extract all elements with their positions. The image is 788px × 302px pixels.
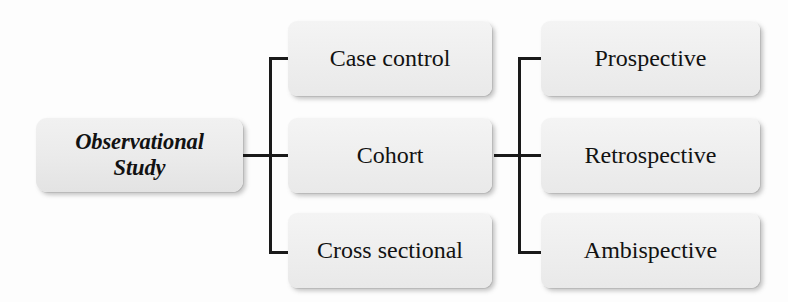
node-cohort-label: Cohort <box>288 142 492 169</box>
connector-to-prospective <box>518 57 542 60</box>
node-cross-sectional: Cross sectional <box>288 213 492 288</box>
root-label-line1: Observational <box>75 129 204 154</box>
node-prospective-label: Prospective <box>541 45 760 72</box>
connector-cohort-to-bracket <box>494 154 521 157</box>
node-ambispective-label: Ambispective <box>541 237 760 264</box>
node-retrospective-label: Retrospective <box>541 142 760 169</box>
node-case-control-label: Case control <box>288 45 492 72</box>
connector-to-ambispective <box>518 251 542 254</box>
node-ambispective: Ambispective <box>541 213 760 288</box>
connector-root-to-bracket <box>243 154 271 157</box>
node-retrospective: Retrospective <box>541 118 760 193</box>
connector-to-retrospective <box>518 154 542 157</box>
node-prospective: Prospective <box>541 21 760 96</box>
node-observational-study: ObservationalStudy <box>36 118 243 192</box>
node-observational-study-label: ObservationalStudy <box>36 129 243 181</box>
node-cohort: Cohort <box>288 118 492 193</box>
node-case-control: Case control <box>288 21 492 96</box>
node-cross-sectional-label: Cross sectional <box>288 237 492 264</box>
root-label-line2: Study <box>113 155 165 180</box>
diagram-canvas: ObservationalStudy Case control Cohort C… <box>0 0 788 302</box>
